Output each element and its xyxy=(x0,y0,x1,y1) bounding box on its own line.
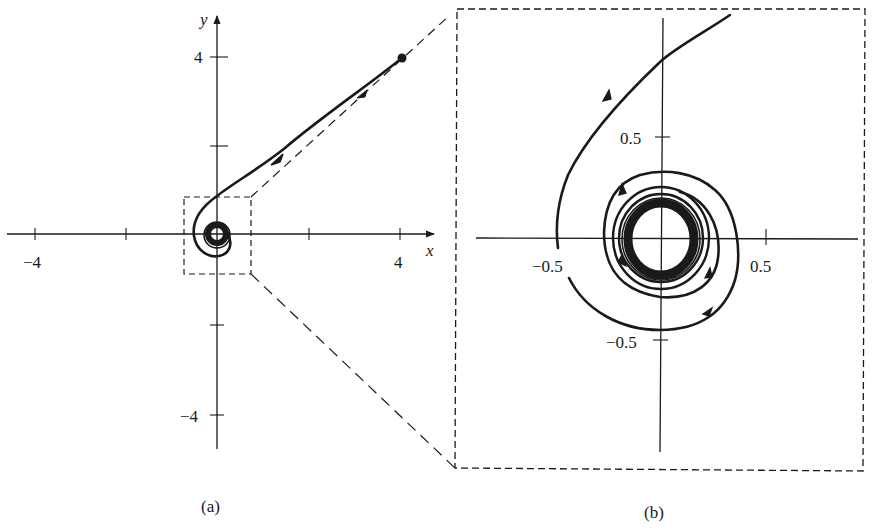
panel-a: −4 4 4 −4 x y (a) xyxy=(7,10,455,516)
panel-b-direction-arrow-icon xyxy=(603,90,611,101)
panel-b-direction-arrow-icon xyxy=(705,268,712,278)
panel-a-tick-x-pos4: 4 xyxy=(394,253,403,272)
panel-b-x-axis xyxy=(476,238,858,239)
panel-b-caption: (b) xyxy=(644,503,664,522)
panel-b-tick-x-neg: −0.5 xyxy=(532,257,563,276)
panel-a-tick-x-neg4: −4 xyxy=(23,253,42,272)
panel-b-tick-x-pos: 0.5 xyxy=(750,257,771,276)
panel-b-y-axis xyxy=(660,18,663,452)
panel-a-tick-y-neg4: −4 xyxy=(180,407,199,426)
panel-b-tick-y-pos: 0.5 xyxy=(620,129,641,148)
panel-b: −0.5 0.5 0.5 −0.5 (b) xyxy=(455,9,865,522)
panel-a-caption: (a) xyxy=(201,497,220,516)
panel-a-diagonal-dashed xyxy=(251,15,450,197)
panel-a-x-label: x xyxy=(425,241,434,260)
connector-line-bottom xyxy=(251,274,455,468)
panel-a-start-point xyxy=(398,54,407,63)
panel-a-tick-y-pos4: 4 xyxy=(194,48,203,67)
figure: −4 4 4 −4 x y (a) xyxy=(0,0,876,530)
panel-b-tick-y-neg: −0.5 xyxy=(606,333,637,352)
panel-a-y-label: y xyxy=(198,10,208,29)
